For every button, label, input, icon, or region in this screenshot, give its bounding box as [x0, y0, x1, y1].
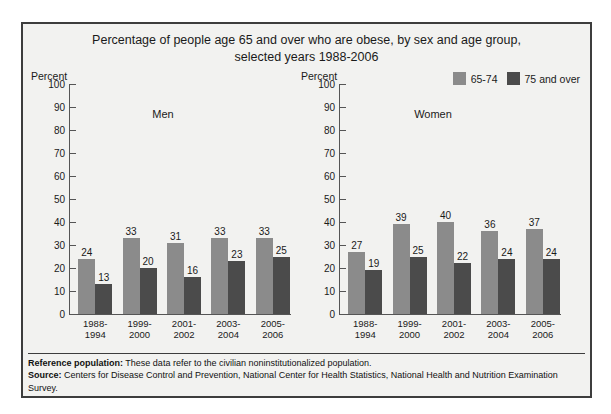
- bar-value-label: 31: [170, 231, 181, 242]
- bar: 16: [184, 277, 201, 314]
- y-tick-label: 70: [54, 148, 65, 159]
- y-tick-mark: [340, 268, 346, 269]
- y-tick-mark: [70, 268, 76, 269]
- y-tick-label: 10: [54, 286, 65, 297]
- y-tick-label: 40: [324, 217, 335, 228]
- y-tick-label: 60: [324, 171, 335, 182]
- bar-value-label: 19: [368, 258, 379, 269]
- y-tick-mark: [340, 245, 346, 246]
- bar-group: 3624: [481, 84, 515, 314]
- y-tick-label: 90: [54, 102, 65, 113]
- bar: 24: [78, 259, 95, 314]
- y-tick-mark: [70, 245, 76, 246]
- footnote-source-label: Source:: [28, 370, 62, 380]
- bar: 22: [454, 263, 471, 314]
- bar: 33: [211, 238, 228, 314]
- y-tick-label: 30: [324, 240, 335, 251]
- footnote-reference-text: These data refer to the civilian noninst…: [123, 358, 372, 368]
- bar-group: 3925: [393, 84, 427, 314]
- x-label-line1: 2005-: [514, 318, 572, 329]
- bar: 37: [526, 229, 543, 314]
- y-tick-mark: [70, 176, 76, 177]
- y-tick-label: 50: [54, 194, 65, 205]
- x-label-line2: 2006: [514, 329, 572, 340]
- y-tick-label: 0: [59, 309, 65, 320]
- y-tick-mark: [70, 130, 76, 131]
- bar-group: 4022: [437, 84, 471, 314]
- footnotes: Reference population: These data refer t…: [23, 353, 590, 395]
- bar-group: 3323: [211, 84, 245, 314]
- bar-value-label: 25: [413, 245, 424, 256]
- bar: 39: [393, 224, 410, 314]
- y-tick-label: 70: [324, 148, 335, 159]
- bar-value-label: 33: [259, 226, 270, 237]
- bar-group: 3325: [256, 84, 290, 314]
- y-tick-label: 0: [329, 309, 335, 320]
- bar: 24: [543, 259, 560, 314]
- y-tick-mark: [340, 222, 346, 223]
- bar: 33: [256, 238, 273, 314]
- x-axis-line-women: [339, 314, 561, 315]
- bar-value-label: 23: [231, 249, 242, 260]
- bar: 36: [481, 231, 498, 314]
- y-tick-label: 20: [324, 263, 335, 274]
- bar: 24: [498, 259, 515, 314]
- bar-group: 2413: [78, 84, 112, 314]
- y-tick-mark: [340, 314, 346, 315]
- x-axis-line-men: [69, 314, 291, 315]
- bar: 31: [167, 243, 184, 314]
- chart-title-line2: selected years 1988-2006: [23, 49, 590, 66]
- y-tick-mark: [70, 314, 76, 315]
- panel-women: Percent Women 10090807060504030201002719…: [299, 70, 567, 360]
- bar-value-label: 16: [187, 265, 198, 276]
- bar-value-label: 22: [457, 251, 468, 262]
- bar-group: 2719: [348, 84, 382, 314]
- bar-value-label: 33: [214, 226, 225, 237]
- footnote-source-text: Centers for Disease Control and Preventi…: [28, 370, 558, 393]
- bar-value-label: 13: [98, 272, 109, 283]
- footnote-reference-population: Reference population: These data refer t…: [28, 357, 585, 370]
- bar: 25: [410, 257, 427, 315]
- y-tick-mark: [340, 176, 346, 177]
- y-tick-mark: [340, 84, 346, 85]
- y-tick-mark: [70, 222, 76, 223]
- bar-value-label: 24: [81, 247, 92, 258]
- footnote-divider: [28, 353, 585, 354]
- y-tick-label: 30: [54, 240, 65, 251]
- bar: 27: [348, 252, 365, 314]
- bar-value-label: 33: [126, 226, 137, 237]
- y-tick-label: 90: [324, 102, 335, 113]
- y-tick-mark: [70, 291, 76, 292]
- bar-value-label: 24: [501, 247, 512, 258]
- bar-value-label: 39: [396, 212, 407, 223]
- bar-group: 3724: [526, 84, 560, 314]
- footnote-reference-label: Reference population:: [28, 358, 123, 368]
- panel-men: Percent Men 1009080706050403020100241319…: [29, 70, 297, 360]
- y-tick-mark: [340, 107, 346, 108]
- bar: 23: [228, 261, 245, 314]
- x-label-line2: 2006: [244, 329, 302, 340]
- y-tick-label: 50: [324, 194, 335, 205]
- y-tick-label: 80: [54, 125, 65, 136]
- y-tick-mark: [340, 199, 346, 200]
- x-axis-category-label: 2005-2006: [514, 318, 572, 340]
- y-tick-label: 60: [54, 171, 65, 182]
- bar: 25: [273, 257, 290, 315]
- chart-title-line1: Percentage of people age 65 and over who…: [92, 33, 521, 47]
- y-tick-label: 20: [54, 263, 65, 274]
- y-tick-mark: [70, 84, 76, 85]
- bar: 20: [140, 268, 157, 314]
- y-tick-label: 80: [324, 125, 335, 136]
- footnote-source: Source: Centers for Disease Control and …: [28, 369, 585, 394]
- y-tick-mark: [340, 130, 346, 131]
- bar-group: 3116: [167, 84, 201, 314]
- y-tick-mark: [70, 153, 76, 154]
- x-axis-category-label: 2005-2006: [244, 318, 302, 340]
- bar: 40: [437, 222, 454, 314]
- y-tick-label: 10: [324, 286, 335, 297]
- panel-women-plot: 100908070605040302010027191988-199439251…: [339, 84, 561, 314]
- bar-value-label: 40: [440, 210, 451, 221]
- bar-value-label: 20: [143, 256, 154, 267]
- bar-group: 3320: [123, 84, 157, 314]
- y-tick-mark: [340, 291, 346, 292]
